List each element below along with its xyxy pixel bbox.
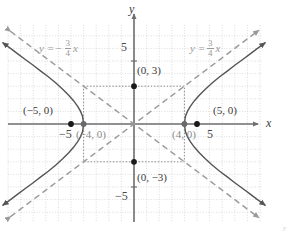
corner-artifact-mark: y <box>283 224 286 232</box>
asymptote-pos-suffix: x <box>216 43 221 54</box>
point-label-covertex-bottom: (0, −3) <box>137 172 167 183</box>
point-marker-co-vertex-bottom <box>131 159 137 165</box>
asymptote-neg-prefix: y = <box>39 43 54 54</box>
asymptote-neg-numerator: 3 <box>65 39 72 48</box>
point-label-focus-right: (5, 0) <box>213 105 237 116</box>
asymptote-label-negative: y = − 3 4 x <box>39 39 78 58</box>
point-label-covertex-top: (0, 3) <box>137 65 161 76</box>
x-axis-label: x <box>266 117 271 129</box>
asymptote-pos-denominator: 4 <box>207 49 214 58</box>
point-label-vertex-left: (−4, 0) <box>76 129 106 140</box>
x-tick-label-neg5: −5 <box>59 128 72 140</box>
asymptote-neg-fraction: 3 4 <box>65 39 72 58</box>
asymptote-pos-prefix: y = <box>190 43 205 54</box>
point-label-vertex-right: (4, 0) <box>172 129 196 140</box>
asymptote-pos-fraction: 3 4 <box>207 39 214 58</box>
point-marker-vertex-left <box>81 121 87 127</box>
y-tick-label-5: 5 <box>121 41 127 53</box>
y-axis-label: y <box>129 3 134 15</box>
asymptote-pos-numerator: 3 <box>207 39 214 48</box>
y-tick-label-neg5: −5 <box>115 190 128 202</box>
asymptote-neg-suffix: x <box>73 43 78 54</box>
hyperbola-figure: x y 5 −5 −5 5 (−5, 0) (−4, 0) (4, 0) (5,… <box>0 0 287 232</box>
x-tick-label-5: 5 <box>207 128 213 140</box>
point-label-focus-left: (−5, 0) <box>23 105 53 116</box>
asymptote-label-positive: y = 3 4 x <box>190 39 220 58</box>
point-marker-co-vertex-top <box>131 83 137 89</box>
point-marker-vertex-right <box>182 121 188 127</box>
point-marker-focus-right <box>194 121 200 127</box>
asymptote-neg-denominator: 4 <box>65 49 72 58</box>
graph-canvas <box>0 0 287 232</box>
asymptote-neg-sign: − <box>55 43 62 54</box>
